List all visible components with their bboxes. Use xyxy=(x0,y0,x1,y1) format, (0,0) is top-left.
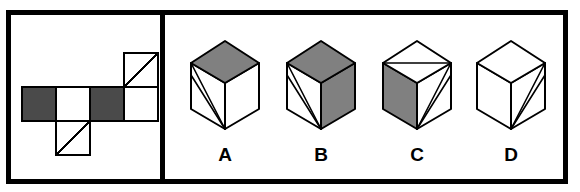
option-d[interactable]: D xyxy=(465,33,557,183)
figure-root: A B xyxy=(0,0,580,192)
option-a-cube xyxy=(179,33,271,145)
option-d-cube xyxy=(465,33,557,145)
option-a-label: A xyxy=(179,145,271,165)
cube-net-diagram xyxy=(11,15,160,179)
option-d-label: D xyxy=(465,145,557,165)
option-b-label: B xyxy=(275,145,367,165)
net-square-right-white xyxy=(124,87,158,121)
option-b[interactable]: B xyxy=(275,33,367,183)
net-panel xyxy=(11,15,160,179)
options-panel: A B xyxy=(165,15,568,179)
net-square-left-shaded xyxy=(22,87,56,121)
net-square-center-shaded xyxy=(90,87,124,121)
option-a[interactable]: A xyxy=(179,33,271,183)
option-b-cube xyxy=(275,33,367,145)
option-c-label: C xyxy=(371,145,463,165)
option-c-cube xyxy=(371,33,463,145)
net-square-middle-white xyxy=(56,87,90,121)
option-c[interactable]: C xyxy=(371,33,463,183)
